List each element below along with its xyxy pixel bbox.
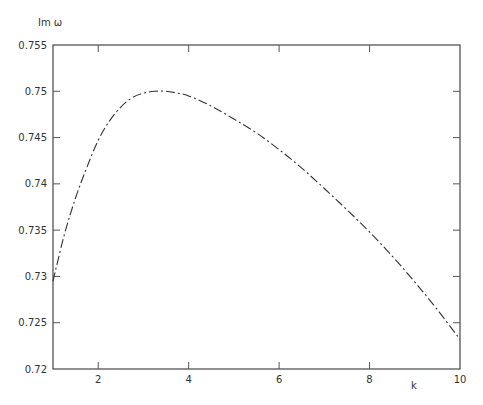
plot-border xyxy=(53,45,460,369)
data-line xyxy=(53,91,460,339)
x-tick-label: 2 xyxy=(95,374,101,385)
y-tick-label: 0.725 xyxy=(18,317,47,328)
y-tick-label: 0.755 xyxy=(18,40,47,51)
y-tick-label: 0.72 xyxy=(25,364,47,375)
x-tick-label: 6 xyxy=(276,374,282,385)
y-tick-label: 0.74 xyxy=(25,178,47,189)
y-tick-label: 0.75 xyxy=(25,86,47,97)
plot-frame xyxy=(53,45,460,369)
y-tick-label: 0.745 xyxy=(18,132,47,143)
x-tick-label: 4 xyxy=(185,374,191,385)
y-tick-label: 0.735 xyxy=(18,225,47,236)
y-tick-labels: 0.720.7250.730.7350.740.7450.750.755 xyxy=(18,40,47,375)
x-axis-title: k xyxy=(411,380,417,391)
y-tick-label: 0.73 xyxy=(25,271,47,282)
x-tick-label: 10 xyxy=(454,374,467,385)
chart: 246810 0.720.7250.730.7350.740.7450.750.… xyxy=(0,0,483,405)
x-tick-label: 8 xyxy=(366,374,372,385)
y-axis-title: Im ω xyxy=(38,17,62,28)
axis-ticks xyxy=(53,45,460,369)
